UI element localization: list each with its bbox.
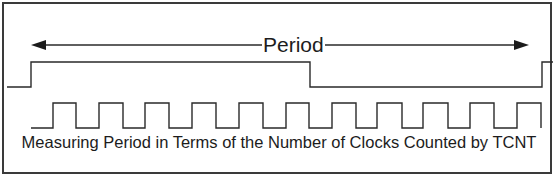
- diagram-caption: Measuring Period in Terms of the Number …: [0, 132, 558, 152]
- tcnt-clock-waveform: [31, 103, 541, 128]
- period-label: Period: [262, 33, 325, 57]
- arrowhead-left-icon: [31, 40, 46, 50]
- input-signal-waveform: [7, 62, 553, 87]
- arrowhead-right-icon: [514, 40, 529, 50]
